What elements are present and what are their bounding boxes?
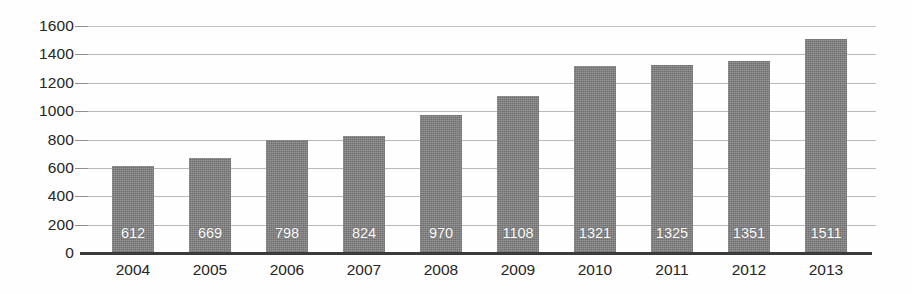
- bar-2010[interactable]: 1321: [574, 66, 616, 253]
- x-tick-label-2010: 2010: [569, 262, 621, 278]
- bar-value-label: 824: [343, 226, 385, 241]
- x-tick-label-2012: 2012: [723, 262, 775, 278]
- bar-chart: 1600 1400 1200 1000 800 600 400 200 0 61…: [0, 0, 912, 294]
- bar-value-label: 1325: [651, 226, 693, 241]
- x-tick-label-2006: 2006: [261, 262, 313, 278]
- x-axis-line: [80, 252, 872, 255]
- bar-value-label: 798: [266, 226, 308, 241]
- bar-value-label: 1511: [805, 226, 847, 241]
- bar-value-label: 1321: [574, 226, 616, 241]
- bar-2005[interactable]: 669: [189, 158, 231, 253]
- bar-2009[interactable]: 1108: [497, 96, 539, 253]
- bar-value-label: 1108: [497, 226, 539, 241]
- x-tick-label-2013: 2013: [800, 262, 852, 278]
- bar-2012[interactable]: 1351: [728, 61, 770, 253]
- bar-2008[interactable]: 970: [420, 115, 462, 253]
- x-tick-label-2008: 2008: [415, 262, 467, 278]
- bar-value-label: 1351: [728, 226, 770, 241]
- bar-2011[interactable]: 1325: [651, 65, 693, 253]
- bar-2013[interactable]: 1511: [805, 39, 847, 253]
- bar-2004[interactable]: 612: [112, 166, 154, 253]
- x-tick-label-2009: 2009: [492, 262, 544, 278]
- x-tick-label-2007: 2007: [338, 262, 390, 278]
- bar-value-label: 970: [420, 226, 462, 241]
- bars-layer: 612 669 798 824 970 1108: [0, 0, 912, 294]
- bar-2006[interactable]: 798: [266, 140, 308, 253]
- bar-value-label: 669: [189, 226, 231, 241]
- x-tick-label-2011: 2011: [646, 262, 698, 278]
- bar-value-label: 612: [112, 226, 154, 241]
- bar-2007[interactable]: 824: [343, 136, 385, 253]
- x-tick-label-2004: 2004: [107, 262, 159, 278]
- x-tick-label-2005: 2005: [184, 262, 236, 278]
